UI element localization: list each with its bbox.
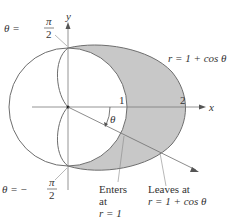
y-axis-arrow-icon (66, 22, 71, 29)
x-axis-label: x (208, 101, 214, 113)
top-angle-denominator: 2 (46, 28, 52, 40)
theta-label: θ (110, 113, 116, 125)
bottom-angle-denominator: 2 (49, 189, 55, 201)
bottom-angle-numerator: π (49, 176, 55, 188)
enters-label-line1: Enters (99, 183, 127, 195)
tick-label-2: 2 (180, 94, 186, 106)
top-angle-numerator: π (46, 15, 52, 27)
x-axis-arrow-icon (199, 105, 206, 110)
leaves-label-line1: Leaves at (148, 183, 190, 195)
top-angle-leader (55, 35, 67, 46)
tick-label-1: 1 (119, 94, 125, 106)
top-angle-prefix: θ = (4, 22, 20, 34)
polar-diagram: y x 1 2 r = 1 + cos θ θ θ = π 2 θ = − π … (0, 0, 234, 221)
leaves-label-line2: r = 1 + cos θ (148, 195, 207, 207)
bottom-angle-prefix: θ = − (2, 183, 28, 195)
y-axis-label: y (65, 10, 71, 22)
enters-label-line3: r = 1 (99, 207, 122, 219)
curve-label: r = 1 + cos θ (168, 52, 227, 64)
enters-label-line2: at (99, 195, 107, 207)
bottom-angle-leader (55, 168, 67, 180)
leaves-leader (160, 153, 166, 186)
